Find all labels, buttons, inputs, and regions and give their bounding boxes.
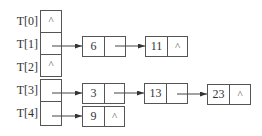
pointer-arrows <box>0 0 262 136</box>
